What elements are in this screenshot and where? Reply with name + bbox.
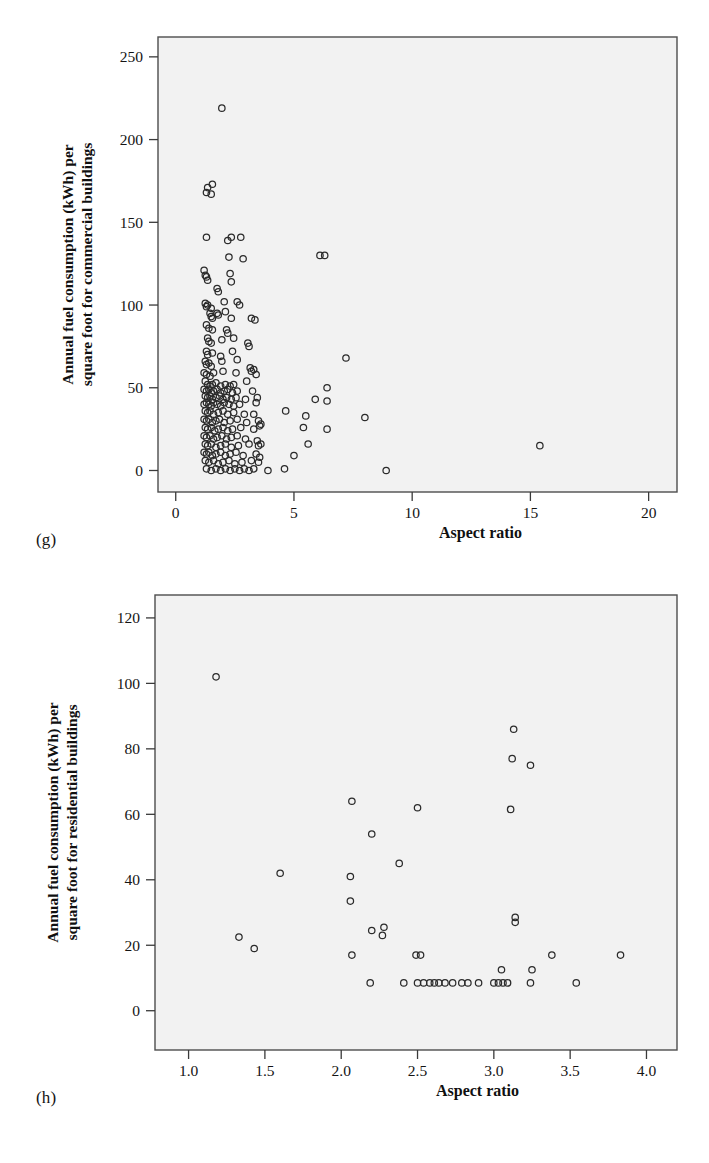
y-tick-label: 50	[128, 379, 144, 396]
y-tick-label: 100	[117, 675, 141, 692]
x-tick-label: 10	[404, 504, 420, 521]
x-tick-label: 20	[641, 504, 657, 521]
x-axis-title-g: Aspect ratio	[0, 524, 709, 542]
x-tick-label: 0	[172, 504, 180, 521]
x-tick-label: 3.0	[484, 1062, 504, 1079]
x-tick-label: 15	[523, 504, 539, 521]
scatter-plot-g: 05010015020025005101520	[0, 0, 709, 540]
y-tick-label: 80	[125, 740, 141, 757]
x-tick-label: 4.0	[637, 1062, 657, 1079]
figure-panel-g: Annual fuel consumption (kWh) per square…	[0, 0, 709, 580]
x-tick-label: 2.0	[332, 1062, 352, 1079]
x-tick-label: 5	[290, 504, 298, 521]
x-tick-label: 1.5	[255, 1062, 275, 1079]
y-tick-label: 40	[125, 871, 141, 888]
x-tick-label: 1.0	[179, 1062, 199, 1079]
y-tick-label: 120	[117, 609, 141, 626]
x-axis-title-h: Aspect ratio	[0, 1082, 709, 1100]
panel-label-g: (g)	[36, 530, 56, 550]
y-tick-label: 200	[120, 131, 144, 148]
y-tick-label: 100	[120, 297, 144, 314]
y-tick-label: 0	[132, 1002, 140, 1019]
x-tick-label: 2.5	[408, 1062, 428, 1079]
x-tick-label: 3.5	[560, 1062, 580, 1079]
scatter-plot-h: 0204060801001201.01.52.02.53.03.54.0	[0, 580, 709, 1080]
y-tick-label: 20	[125, 937, 141, 954]
y-tick-label: 250	[120, 48, 144, 65]
figure-panel-h: Annual fuel consumption (kWh) per square…	[0, 580, 709, 1163]
y-tick-label: 60	[125, 806, 141, 823]
y-tick-label: 150	[120, 214, 144, 231]
y-tick-label: 0	[135, 462, 143, 479]
panel-label-h: (h)	[36, 1088, 56, 1108]
